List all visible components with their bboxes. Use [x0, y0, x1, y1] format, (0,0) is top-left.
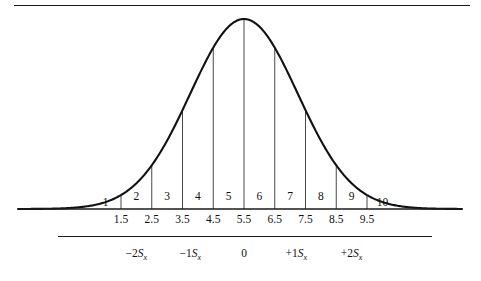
tick-label-row: 1.52.53.54.55.56.57.58.59.5 [0, 212, 481, 228]
tick-label: 4.5 [206, 212, 221, 226]
sd-marker-label: −1Sx [179, 245, 201, 266]
sd-marker-label: +2Sx [341, 245, 363, 266]
tick-label: 7.5 [298, 212, 313, 226]
normal-curve-figure: 12345678910 1.52.53.54.55.56.57.58.59.5 … [0, 0, 481, 281]
tick-label: 6.5 [267, 212, 282, 226]
tick-label: 3.5 [175, 212, 190, 226]
normal-curve-svg [0, 0, 481, 281]
tick-label: 8.5 [329, 212, 344, 226]
band-divider-group [121, 19, 367, 209]
curve-plot-area [0, 0, 481, 281]
normal-curve-path [18, 19, 462, 209]
standard-deviation-label-row: −2Sx−1Sx0+1Sx+2Sx [0, 245, 481, 263]
tick-label: 2.5 [144, 212, 159, 226]
middle-horizontal-rule [58, 236, 432, 237]
tick-label: 9.5 [360, 212, 375, 226]
sd-marker-label: −2Sx [126, 245, 148, 266]
sd-marker-label: 0 [241, 245, 247, 261]
tick-label: 5.5 [237, 212, 252, 226]
sd-marker-label: +1Sx [285, 245, 307, 266]
tick-label: 1.5 [114, 212, 129, 226]
